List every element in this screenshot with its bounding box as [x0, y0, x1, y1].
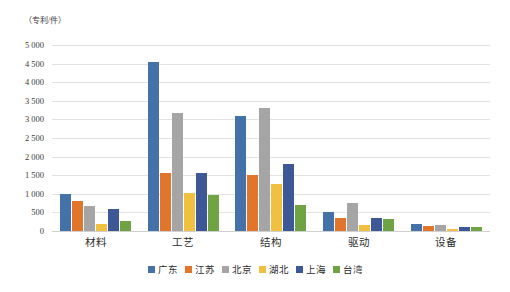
legend-item[interactable]: 上海	[296, 262, 326, 276]
y-axis-tick-label: 2 000	[25, 152, 44, 162]
bar-group	[140, 45, 228, 231]
chart-legend: 广东江苏北京湖北上海台湾	[0, 262, 510, 276]
bar[interactable]	[235, 116, 246, 231]
bar[interactable]	[435, 225, 446, 231]
bar[interactable]	[411, 224, 422, 231]
bar-groups	[52, 45, 490, 231]
legend-item[interactable]: 江苏	[185, 262, 215, 276]
bar[interactable]	[148, 62, 159, 231]
bar[interactable]	[208, 195, 219, 231]
gridline	[52, 231, 490, 232]
x-axis-category-label: 工艺	[140, 234, 228, 254]
legend-swatch-icon	[185, 266, 192, 273]
bar[interactable]	[383, 219, 394, 231]
bar[interactable]	[283, 164, 294, 231]
bar[interactable]	[471, 227, 482, 231]
bar[interactable]	[184, 193, 195, 231]
x-axis-category-label: 设备	[402, 234, 490, 254]
bar[interactable]	[196, 173, 207, 231]
y-axis-tick-label: 1 500	[25, 170, 44, 180]
y-axis-tick-label: 2 500	[25, 133, 44, 143]
plot-area	[52, 45, 490, 231]
x-axis-category-labels: 材料工艺结构驱动设备	[52, 234, 490, 254]
y-axis-unit-label: （专利/件）	[24, 14, 66, 25]
y-axis-tick-label: 5 000	[25, 40, 44, 50]
bar[interactable]	[60, 194, 71, 231]
legend-swatch-icon	[222, 266, 229, 273]
bar[interactable]	[423, 226, 434, 231]
legend-item[interactable]: 广东	[148, 262, 178, 276]
legend-swatch-icon	[296, 266, 303, 273]
legend-label: 广东	[158, 262, 178, 276]
bar[interactable]	[347, 203, 358, 231]
bar[interactable]	[447, 229, 458, 231]
legend-swatch-icon	[259, 266, 266, 273]
bar[interactable]	[323, 212, 334, 231]
y-axis-tick-label: 4 500	[25, 59, 44, 69]
bar-group	[52, 45, 140, 231]
bar-chart: （专利/件） 05001 0001 5002 0002 5003 0003 50…	[0, 0, 510, 292]
y-axis-tick-label: 3 000	[25, 114, 44, 124]
bar-group	[402, 45, 490, 231]
bar[interactable]	[295, 205, 306, 231]
y-axis-tick-label: 1 000	[25, 189, 44, 199]
bar[interactable]	[371, 218, 382, 231]
legend-label: 台湾	[343, 262, 363, 276]
legend-item[interactable]: 北京	[222, 262, 252, 276]
x-axis-category-label: 驱动	[315, 234, 403, 254]
bar[interactable]	[172, 113, 183, 231]
x-axis-category-label: 材料	[52, 234, 140, 254]
bar[interactable]	[84, 206, 95, 231]
bar-group	[315, 45, 403, 231]
legend-label: 上海	[306, 262, 326, 276]
bar[interactable]	[108, 209, 119, 231]
bar[interactable]	[160, 173, 171, 231]
bar[interactable]	[120, 221, 131, 231]
y-axis-tick-label: 3 500	[25, 96, 44, 106]
y-axis-tick-label: 0	[40, 226, 44, 236]
bar[interactable]	[459, 227, 470, 231]
legend-label: 湖北	[269, 262, 289, 276]
legend-swatch-icon	[333, 266, 340, 273]
legend-swatch-icon	[148, 266, 155, 273]
bar[interactable]	[247, 175, 258, 231]
bar[interactable]	[259, 108, 270, 231]
bar[interactable]	[271, 184, 282, 231]
y-axis-tick-label: 4 000	[25, 77, 44, 87]
legend-item[interactable]: 湖北	[259, 262, 289, 276]
x-axis-category-label: 结构	[227, 234, 315, 254]
legend-label: 北京	[232, 262, 252, 276]
legend-item[interactable]: 台湾	[333, 262, 363, 276]
bar[interactable]	[96, 224, 107, 231]
bar[interactable]	[72, 201, 83, 232]
bar[interactable]	[335, 218, 346, 231]
bar-group	[227, 45, 315, 231]
bar[interactable]	[359, 225, 370, 231]
y-axis-tick-label: 500	[31, 207, 44, 217]
y-axis-tick-labels: 05001 0001 5002 0002 5003 0003 5004 0004…	[0, 45, 50, 231]
legend-label: 江苏	[195, 262, 215, 276]
